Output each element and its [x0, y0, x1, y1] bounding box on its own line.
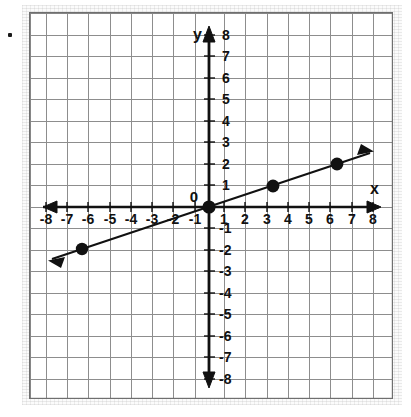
data-point-marker — [202, 200, 215, 213]
x-tick-label: 5 — [305, 211, 313, 227]
y-tick-label: 5 — [222, 91, 230, 107]
x-axis-label: x — [370, 180, 379, 197]
y-tick-label: -2 — [219, 242, 232, 258]
x-tick-label: -7 — [61, 211, 74, 227]
y-tick-label: -1 — [219, 220, 232, 236]
x-tick-label: 6 — [326, 211, 334, 227]
y-tick-label: 6 — [222, 70, 230, 86]
y-tick-label: 1 — [222, 177, 230, 193]
graph-canvas: -8 -7 -6 -5 -4 -3 -2 -1 1 2 3 4 5 6 7 8 … — [29, 12, 393, 399]
data-point-marker — [267, 180, 280, 193]
y-tick-label: 2 — [222, 156, 230, 172]
data-point-marker — [331, 158, 344, 171]
y-tick-label: -6 — [219, 328, 232, 344]
y-tick-label: -4 — [219, 285, 232, 301]
x-tick-label: -6 — [82, 211, 95, 227]
y-tick-label: 3 — [222, 134, 230, 150]
x-tick-label: 8 — [369, 211, 377, 227]
y-tick-label: 7 — [222, 48, 230, 64]
x-tick-label: 7 — [348, 211, 356, 227]
x-tick-label: 4 — [284, 211, 292, 227]
bullet-point-marker — [8, 33, 12, 37]
x-tick-label: -4 — [125, 211, 138, 227]
y-tick-label: -8 — [219, 371, 232, 387]
y-tick-label: 4 — [222, 113, 230, 129]
x-tick-label: -5 — [104, 211, 117, 227]
y-axis-label: y — [193, 26, 202, 43]
y-tick-label: -7 — [219, 349, 232, 365]
y-tick-label: 8 — [222, 27, 230, 43]
origin-label: 0 — [190, 188, 198, 205]
y-tick-label: -5 — [219, 306, 232, 322]
x-tick-label: -8 — [40, 211, 53, 227]
coordinate-plane-figure: -8 -7 -6 -5 -4 -3 -2 -1 1 2 3 4 5 6 7 8 … — [29, 12, 393, 399]
x-tick-label: 3 — [263, 211, 271, 227]
x-tick-label: 2 — [241, 211, 249, 227]
data-point-marker — [76, 243, 88, 255]
y-tick-label: -3 — [219, 263, 232, 279]
